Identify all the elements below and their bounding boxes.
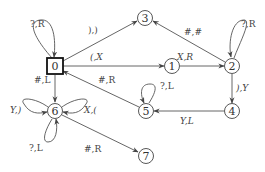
node-5: 5 — [139, 104, 154, 119]
edge-label-5-0: #,R — [98, 75, 115, 85]
edge-label-2-2: ?,R — [241, 19, 256, 29]
node-0-start: 0 — [47, 58, 63, 74]
node-2: 2 — [225, 59, 240, 74]
edge-label-1-2: X,R — [176, 52, 193, 62]
node-3: 3 — [138, 11, 153, 26]
node-7: 7 — [139, 149, 154, 164]
edge-label-2-4: ),Y — [235, 83, 249, 93]
edge-label-6-6-bottom: ?,L — [29, 143, 43, 153]
edge-label-6-7: #,R — [84, 144, 101, 154]
node-label: 3 — [142, 12, 149, 25]
edge-6-6-loop-bottom — [45, 119, 57, 142]
node-label: 6 — [52, 105, 59, 118]
node-6: 6 — [48, 104, 63, 119]
node-4: 4 — [225, 104, 240, 119]
edge-label-4-5: Y,L — [180, 116, 194, 126]
edge-label-6-6-left: Y,) — [10, 105, 22, 115]
node-label: 5 — [143, 105, 150, 118]
node-label: 4 — [229, 105, 236, 118]
edge-label-6-6-right: X,( — [83, 105, 97, 115]
state-diagram: ?,R ),) (,X #,L X,R ?,R #,# ),Y Y,L ?,L … — [0, 0, 265, 172]
edge-label-2-3: #,# — [184, 27, 202, 37]
edge-label-0-1: (,X — [90, 52, 103, 62]
node-label: 2 — [229, 60, 236, 73]
edge-label-0-3: ),) — [88, 25, 98, 35]
edge-label-0-0: ?,R — [30, 19, 45, 29]
node-label: 1 — [169, 60, 176, 73]
edge-label-0-6: #,L — [34, 75, 50, 85]
edge-5-5-loop — [142, 84, 156, 103]
node-label: 7 — [143, 150, 150, 163]
edge-6-6-loop-left — [23, 99, 48, 113]
edge-label-5-5: ?,L — [160, 81, 174, 91]
node-label: 0 — [52, 60, 59, 73]
node-1: 1 — [165, 59, 180, 74]
